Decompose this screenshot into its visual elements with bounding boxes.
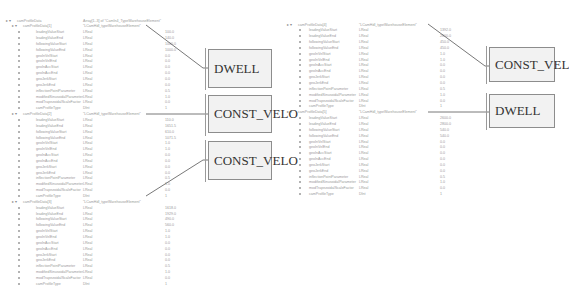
callout-bracket bbox=[486, 46, 487, 84]
callout-dwell: DWELL bbox=[208, 49, 272, 88]
callout-bracket bbox=[486, 93, 487, 130]
callout-bracket bbox=[205, 94, 206, 136]
callout-dwell: DWELL bbox=[489, 94, 555, 128]
callout-const-velo: CONST_VELO bbox=[489, 47, 555, 82]
callout-leader-lines bbox=[0, 0, 569, 293]
callout-const-velo: CONST_VELO bbox=[208, 141, 272, 180]
callout-const-velo: CONST_VELO bbox=[208, 95, 272, 133]
callout-bracket bbox=[205, 140, 206, 182]
callout-bracket bbox=[205, 48, 206, 90]
